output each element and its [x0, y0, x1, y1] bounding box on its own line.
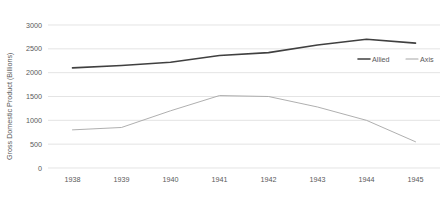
y-tick-label-1500: 1500 — [26, 92, 42, 101]
x-tick-label-1938: 1938 — [65, 175, 81, 184]
x-tick-label-1942: 1942 — [261, 175, 277, 184]
y-tick-label-2500: 2500 — [26, 44, 42, 53]
gridlines — [48, 25, 440, 168]
y-tick-label-500: 500 — [30, 140, 42, 149]
x-tick-label-1939: 1939 — [114, 175, 130, 184]
y-tick-label-1000: 1000 — [26, 116, 42, 125]
line-chart: 050010001500200025003000 193819391940194… — [0, 0, 448, 201]
y-tick-label-0: 0 — [38, 164, 42, 173]
legend-label-axis: Axis — [420, 55, 434, 64]
x-tick-label-1943: 1943 — [310, 175, 326, 184]
x-axis-tick-labels: 19381939194019411942194319441945 — [65, 175, 424, 184]
x-tick-label-1944: 1944 — [359, 175, 375, 184]
chart-canvas: 050010001500200025003000 193819391940194… — [0, 0, 448, 201]
x-tick-label-1941: 1941 — [212, 175, 228, 184]
data-series — [73, 39, 416, 141]
x-tick-label-1940: 1940 — [163, 175, 179, 184]
y-tick-label-3000: 3000 — [26, 21, 42, 30]
x-tick-label-1945: 1945 — [408, 175, 424, 184]
y-axis-title: Gross Domestic Product (Billions) — [5, 53, 14, 160]
series-line-axis — [73, 96, 416, 142]
chart-legend: AlliedAxis — [358, 55, 434, 64]
y-axis-tick-labels: 050010001500200025003000 — [26, 21, 42, 173]
series-line-allied — [73, 39, 416, 68]
legend-label-allied: Allied — [372, 55, 390, 64]
y-tick-label-2000: 2000 — [26, 68, 42, 77]
